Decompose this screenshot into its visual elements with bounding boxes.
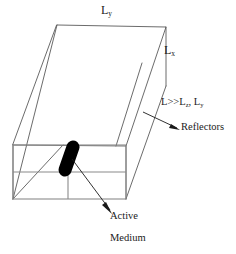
active-medium-bar (65, 147, 73, 170)
label-length-y-subscript: y (108, 9, 112, 18)
label-medium: Medium (110, 233, 146, 244)
reflectors-arrowhead (169, 124, 180, 130)
label-length-x-subscript: x (171, 49, 175, 58)
label-reflectors: Reflectors (181, 122, 224, 133)
label-active: Active (110, 211, 138, 222)
label-length-x: Lx (164, 44, 175, 56)
figure-canvas: Ly Lx L>>Lz, Ly Reflectors Active Medium (0, 0, 236, 254)
box-rear-left-diagonal (13, 25, 57, 199)
box-right-rear-edge (126, 86, 166, 199)
label-inequality-lead: L>>L (161, 96, 186, 107)
label-inequality-mid: , L (189, 96, 201, 107)
reflectors-pointer (143, 112, 180, 130)
active-medium-pointer-line (72, 159, 110, 210)
box-cross-diagonal (116, 63, 142, 146)
label-inequality-subscript-y: y (200, 101, 203, 108)
label-inequality: L>>Lz, Ly (161, 97, 203, 108)
active-medium-pointer (72, 159, 112, 214)
box-top-face (13, 25, 166, 146)
label-length-y: Ly (101, 4, 112, 16)
label-inequality-subscript-z: z (186, 101, 189, 108)
